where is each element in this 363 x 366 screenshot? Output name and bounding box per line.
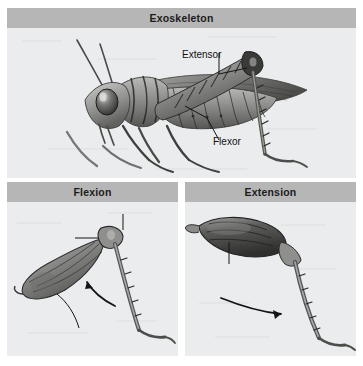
panel-title-exoskeleton: Exoskeleton [149,12,213,24]
panel-title-extension: Extension [245,186,297,198]
panel-exoskeleton: Exoskeleton [7,8,356,178]
panel-flexion: Flexion [7,182,178,356]
panel-title-flexion: Flexion [73,186,111,198]
label-flexor: Flexor [213,136,241,148]
panel-body-extension [185,202,356,356]
panel-extension: Extension [185,182,356,356]
extended-leg-illustration [185,202,356,356]
panel-header-flexion: Flexion [7,182,178,202]
panel-body-flexion [7,202,178,356]
figure-root: Exoskeleton [0,0,363,366]
panel-header-extension: Extension [185,182,356,202]
label-extensor: Extensor [182,49,221,61]
panel-header-exoskeleton: Exoskeleton [7,8,356,28]
flexed-leg-illustration [7,202,178,356]
